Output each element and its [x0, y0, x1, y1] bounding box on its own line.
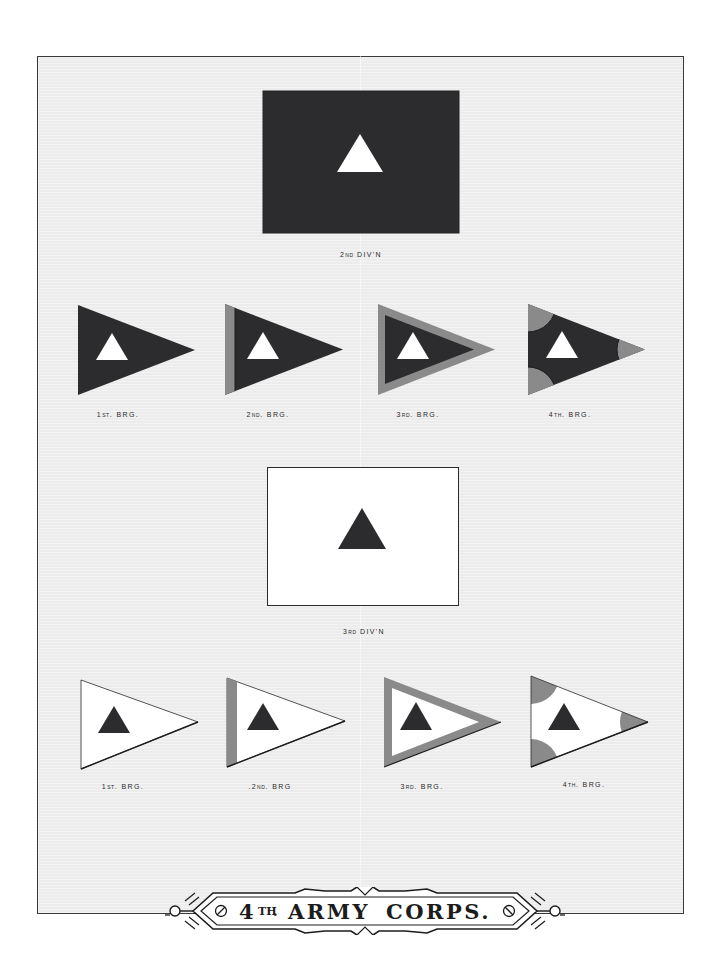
label-3rd-div-4th-brigade: 4TH. BRG. — [563, 781, 606, 788]
flag-3rd-division — [267, 467, 459, 606]
label-3rd-div-2nd-brigade: .2ND. BRG — [248, 783, 291, 790]
label-3rd-div-3rd-brigade: 3RD. BRG. — [400, 783, 443, 790]
plate-title: 4TH.ARMYCORPS. — [165, 887, 565, 935]
pennant-3rd-div-1st-brigade — [81, 680, 200, 770]
pennant-2nd-div-4th-brigade — [528, 304, 646, 395]
pennant-3rd-div-3rd-brigade — [384, 677, 503, 768]
label-2nd-div-1st-brigade: 1ST. BRG. — [97, 411, 139, 418]
pennant-2nd-div-3rd-brigade — [378, 304, 496, 395]
pennant-2nd-div-1st-brigade — [78, 305, 196, 395]
label-2nd-div-3rd-brigade: 3RD. BRG. — [396, 411, 439, 418]
pennant-2nd-div-2nd-brigade — [225, 304, 345, 395]
label-2nd-div-4th-brigade: 4TH. BRG. — [549, 411, 592, 418]
label-3rd-division: 3RD DIV'N — [343, 628, 385, 635]
label-3rd-div-1st-brigade: 1ST. BRG. — [102, 783, 144, 790]
pennant-3rd-div-2nd-brigade — [227, 678, 347, 768]
flag-2nd-division — [263, 91, 459, 233]
title-banner: 4TH.ARMYCORPS. — [165, 887, 565, 935]
label-2nd-division: 2ND DIV'N — [340, 251, 382, 258]
pennant-3rd-div-4th-brigade — [531, 676, 649, 768]
label-2nd-div-2nd-brigade: 2ND. BRG. — [246, 411, 289, 418]
